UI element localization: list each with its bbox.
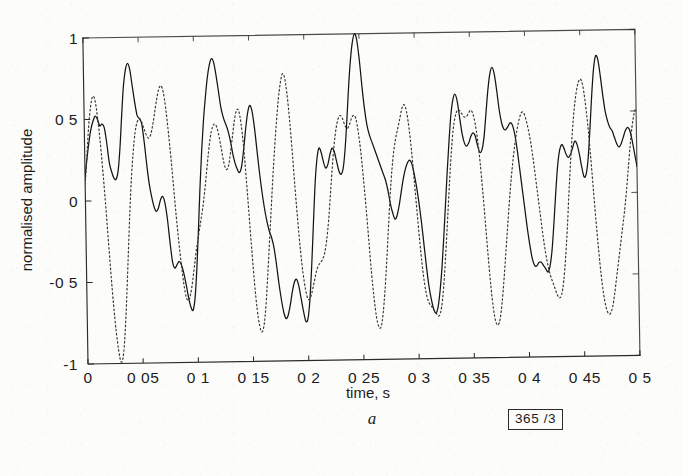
waveform-chart: 00 050 10 150 20 250 30 350 40 450 5 -1-…: [0, 0, 683, 476]
y-tick-label: 0: [69, 193, 78, 210]
y-tick-label: -1: [63, 356, 78, 373]
solid-trace: [83, 29, 639, 325]
x-tick-label: 0 35: [458, 369, 490, 386]
x-tick-label: 0 45: [569, 369, 601, 386]
x-tick-label: 0 5: [628, 369, 651, 386]
y-axis-title: normalised amplitude: [18, 129, 35, 272]
x-axis-title: time, s: [346, 384, 390, 401]
x-tick-label: 0 4: [518, 369, 541, 386]
x-tick-label: 0 15: [238, 369, 270, 386]
traces-group: [83, 29, 640, 362]
x-tick-label: 0 05: [127, 369, 159, 386]
x-tick-label: 0 3: [408, 369, 431, 386]
x-tick-label: 0: [83, 369, 92, 386]
y-tick-label: 1: [69, 30, 78, 47]
figure-root: 00 050 10 150 20 250 30 350 40 450 5 -1-…: [0, 0, 683, 476]
subfigure-label: a: [368, 409, 377, 428]
y-tick-labels: -1-0 500 51: [49, 30, 78, 373]
figure-reference-box: 365 /3: [508, 409, 563, 430]
x-tick-label: 0 2: [297, 369, 320, 386]
x-tick-label: 0 1: [187, 369, 210, 386]
y-tick-label: -0 5: [49, 274, 78, 291]
y-tick-label: 0 5: [55, 111, 78, 128]
